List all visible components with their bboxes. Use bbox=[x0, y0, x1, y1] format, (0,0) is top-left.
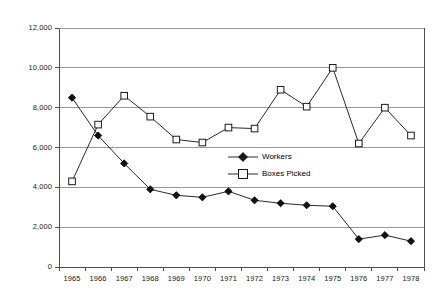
chart-plot-area bbox=[0, 0, 446, 297]
y-axis-tick-label: 6,000 bbox=[33, 143, 52, 152]
y-axis-tick-label: 12,000 bbox=[28, 23, 52, 32]
y-axis-tick-label: 4,000 bbox=[33, 182, 52, 191]
y-axis-ticks bbox=[55, 28, 59, 267]
filled-diamond-icon bbox=[226, 151, 260, 163]
x-axis-ticks bbox=[59, 267, 424, 271]
open-square-icon bbox=[226, 168, 260, 180]
legend-label-boxes-picked: Boxes Picked bbox=[262, 169, 310, 178]
legend-label-workers: Workers bbox=[262, 152, 292, 161]
y-axis-tick-label: 2,000 bbox=[33, 222, 52, 231]
line-chart: 12,00010,0008,0006,0004,0002,0000 196519… bbox=[0, 0, 446, 297]
y-axis-tick-label: 10,000 bbox=[28, 63, 52, 72]
chart-legend: Workers Boxes Picked bbox=[226, 148, 348, 182]
x-axis-tick-label: 1978 bbox=[395, 274, 427, 283]
legend-item-boxes-picked: Boxes Picked bbox=[226, 165, 348, 182]
y-axis-tick-label: 8,000 bbox=[33, 103, 52, 112]
legend-item-workers: Workers bbox=[226, 148, 348, 165]
y-axis-tick-label: 0 bbox=[48, 262, 52, 271]
